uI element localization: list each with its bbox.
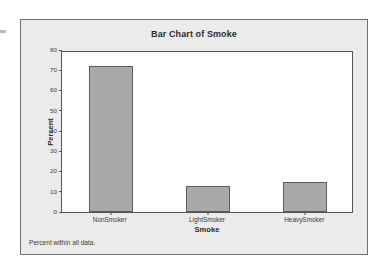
y-axis-tick-label: 20: [50, 168, 59, 174]
bar[interactable]: [89, 66, 133, 212]
x-axis-label: Smoke: [61, 225, 353, 234]
bar[interactable]: [283, 182, 327, 212]
graph-panel: Bar Chart of Smoke Percent 0102030405060…: [20, 19, 368, 255]
x-axis-tick-label: LightSmoker: [189, 216, 225, 223]
y-axis-tick-label: 70: [50, 67, 59, 73]
y-axis-tick-label: 40: [50, 128, 59, 134]
bar-slot: [159, 52, 256, 212]
footnote-text: Percent within all data.: [29, 239, 95, 246]
y-axis-tick-mark: [59, 50, 62, 51]
x-axis-tick-mark: [305, 212, 306, 215]
y-axis-tick-label: 80: [50, 47, 59, 53]
y-axis-tick-label: 30: [50, 148, 59, 154]
bar[interactable]: [186, 186, 230, 212]
x-axis-tick-mark: [110, 212, 111, 215]
chart-title: Bar Chart of Smoke: [21, 29, 367, 39]
x-axis-tick-label: HeavySmoker: [284, 216, 324, 223]
x-axis-tick-label: NonSmoker: [93, 216, 127, 223]
bar-slot: [257, 52, 354, 212]
scan-edge-artifact: [0, 30, 6, 33]
bars-layer: [62, 52, 352, 212]
y-axis-tick-label: 50: [50, 108, 59, 114]
bar-slot: [62, 52, 159, 212]
y-axis-tick-label: 10: [50, 189, 59, 195]
x-axis-tick-mark: [207, 212, 208, 215]
plot-area: Percent 01020304050607080: [61, 51, 353, 213]
y-axis-tick-label: 60: [50, 87, 59, 93]
